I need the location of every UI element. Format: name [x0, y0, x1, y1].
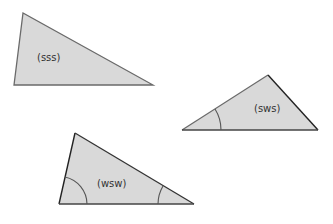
- triangle-sws-shape: [182, 75, 318, 130]
- label-sss: (sss): [37, 52, 61, 63]
- triangle-wsw-shape: [59, 133, 194, 204]
- triangle-sss: (sss): [14, 13, 153, 85]
- congruence-diagram: (sss) (sws) (wsw): [0, 0, 333, 224]
- label-wsw: (wsw): [97, 178, 126, 189]
- triangle-sws: (sws): [182, 75, 318, 130]
- label-sws: (sws): [254, 103, 281, 114]
- triangle-sss-shape: [14, 13, 153, 85]
- triangle-wsw: (wsw): [59, 133, 194, 204]
